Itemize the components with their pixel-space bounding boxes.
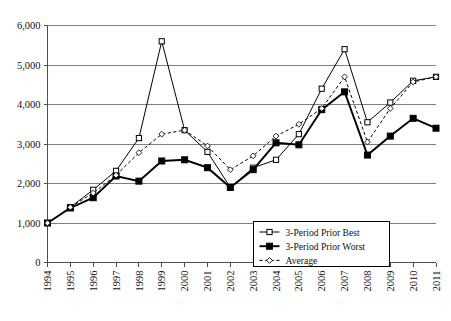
legend-label: Average bbox=[286, 255, 318, 266]
line-chart: 01,0002,0003,0004,0005,0006,000 19941995… bbox=[0, 0, 451, 321]
data-point-marker-open-square bbox=[136, 135, 141, 140]
y-tick-label: 2,000 bbox=[17, 178, 41, 189]
x-tick-label: 1994 bbox=[42, 270, 53, 292]
data-point-marker-open-square bbox=[273, 157, 278, 162]
data-point-marker-open-square bbox=[205, 149, 210, 154]
data-point-marker-open-square bbox=[296, 132, 301, 137]
x-tick-label: 2005 bbox=[293, 271, 304, 292]
data-point-marker-filled-square bbox=[159, 158, 165, 164]
legend-label: 3-Period Prior Worst bbox=[286, 241, 366, 252]
data-point-marker-open-square bbox=[342, 47, 347, 52]
x-tick-label: 2010 bbox=[408, 271, 419, 292]
series-markers-group bbox=[45, 39, 440, 226]
data-point-marker-filled-square bbox=[136, 178, 142, 184]
legend[interactable]: 3-Period Prior Best3-Period Prior WorstA… bbox=[254, 222, 390, 267]
x-tick-label: 1999 bbox=[156, 271, 167, 292]
x-tick-label: 2008 bbox=[362, 271, 373, 292]
x-tick-label: 1997 bbox=[111, 271, 122, 292]
data-point-marker-filled-square bbox=[227, 184, 233, 190]
x-tick-label: 2000 bbox=[179, 271, 190, 292]
y-tick-label: 6,000 bbox=[17, 20, 41, 31]
x-tick-label: 1996 bbox=[88, 271, 99, 292]
data-point-marker-filled-square bbox=[342, 89, 348, 95]
x-tick-label: 2001 bbox=[202, 271, 213, 292]
data-point-marker-open-diamond bbox=[296, 121, 302, 127]
data-point-marker-open-square bbox=[365, 120, 370, 125]
data-point-marker-filled-square bbox=[364, 152, 370, 158]
x-tick-label: 2011 bbox=[431, 271, 442, 292]
x-tick-label: 2004 bbox=[271, 270, 282, 292]
y-tick-label: 3,000 bbox=[17, 139, 41, 150]
series-line-average bbox=[48, 77, 437, 223]
data-point-marker-filled-square bbox=[387, 133, 393, 139]
chart-canvas: 01,0002,0003,0004,0005,0006,000 19941995… bbox=[0, 0, 451, 321]
data-point-marker-filled-square bbox=[250, 167, 256, 173]
x-tick-label: 2007 bbox=[339, 271, 350, 292]
data-point-marker-filled-square bbox=[296, 142, 302, 148]
x-tick-label: 2003 bbox=[248, 271, 259, 292]
data-point-marker-filled-square bbox=[182, 157, 188, 163]
y-tick-label: 4,000 bbox=[17, 99, 41, 110]
series-line-3-period-prior-best bbox=[48, 41, 437, 223]
series-lines-group bbox=[48, 41, 437, 223]
data-point-marker-filled-square bbox=[433, 125, 439, 131]
legend-marker-filled-square bbox=[267, 243, 273, 249]
data-point-marker-filled-square bbox=[410, 115, 416, 121]
x-tick-label: 1998 bbox=[134, 271, 145, 292]
x-tick-label: 2006 bbox=[316, 271, 327, 292]
data-point-marker-open-diamond bbox=[387, 106, 393, 112]
y-tick-label: 1,000 bbox=[17, 218, 41, 229]
data-point-marker-open-square bbox=[388, 100, 393, 105]
data-point-marker-filled-square bbox=[273, 140, 279, 146]
data-point-marker-open-square bbox=[159, 39, 164, 44]
data-point-marker-filled-square bbox=[204, 165, 210, 171]
y-axis-tick-labels: 01,0002,0003,0004,0005,0006,000 bbox=[17, 20, 41, 268]
x-tick-label: 2009 bbox=[385, 271, 396, 292]
x-axis-tick-labels: 1994199519961997199819992000200120022003… bbox=[42, 270, 442, 292]
y-tick-label: 5,000 bbox=[17, 60, 41, 71]
legend-marker-open-square bbox=[267, 229, 272, 234]
legend-label: 3-Period Prior Best bbox=[286, 227, 360, 238]
data-point-marker-open-square bbox=[319, 86, 324, 91]
x-tick-label: 1995 bbox=[65, 271, 76, 292]
x-tick-label: 2002 bbox=[225, 271, 236, 292]
series-line-3-period-prior-worst bbox=[48, 92, 437, 223]
gridlines-group bbox=[48, 26, 437, 224]
y-tick-label: 0 bbox=[35, 257, 40, 268]
